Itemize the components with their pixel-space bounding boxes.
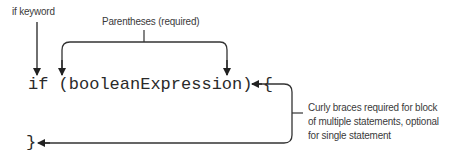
curly-braces-label-line-2: of multiple statements, optional xyxy=(308,114,439,128)
curly-braces-label-line-3: for single statement xyxy=(308,128,439,142)
if-keyword-label: if keyword xyxy=(12,5,55,17)
parentheses-bracket xyxy=(62,42,227,75)
curly-braces-label-line-1: Curly braces required for block xyxy=(308,100,439,114)
code-line-close-brace: } xyxy=(26,133,36,152)
curly-braces-label: Curly braces required for block of multi… xyxy=(308,100,439,142)
parentheses-label: Parentheses (required) xyxy=(102,15,199,27)
code-line-if: if (booleanExpression) { xyxy=(28,75,273,94)
